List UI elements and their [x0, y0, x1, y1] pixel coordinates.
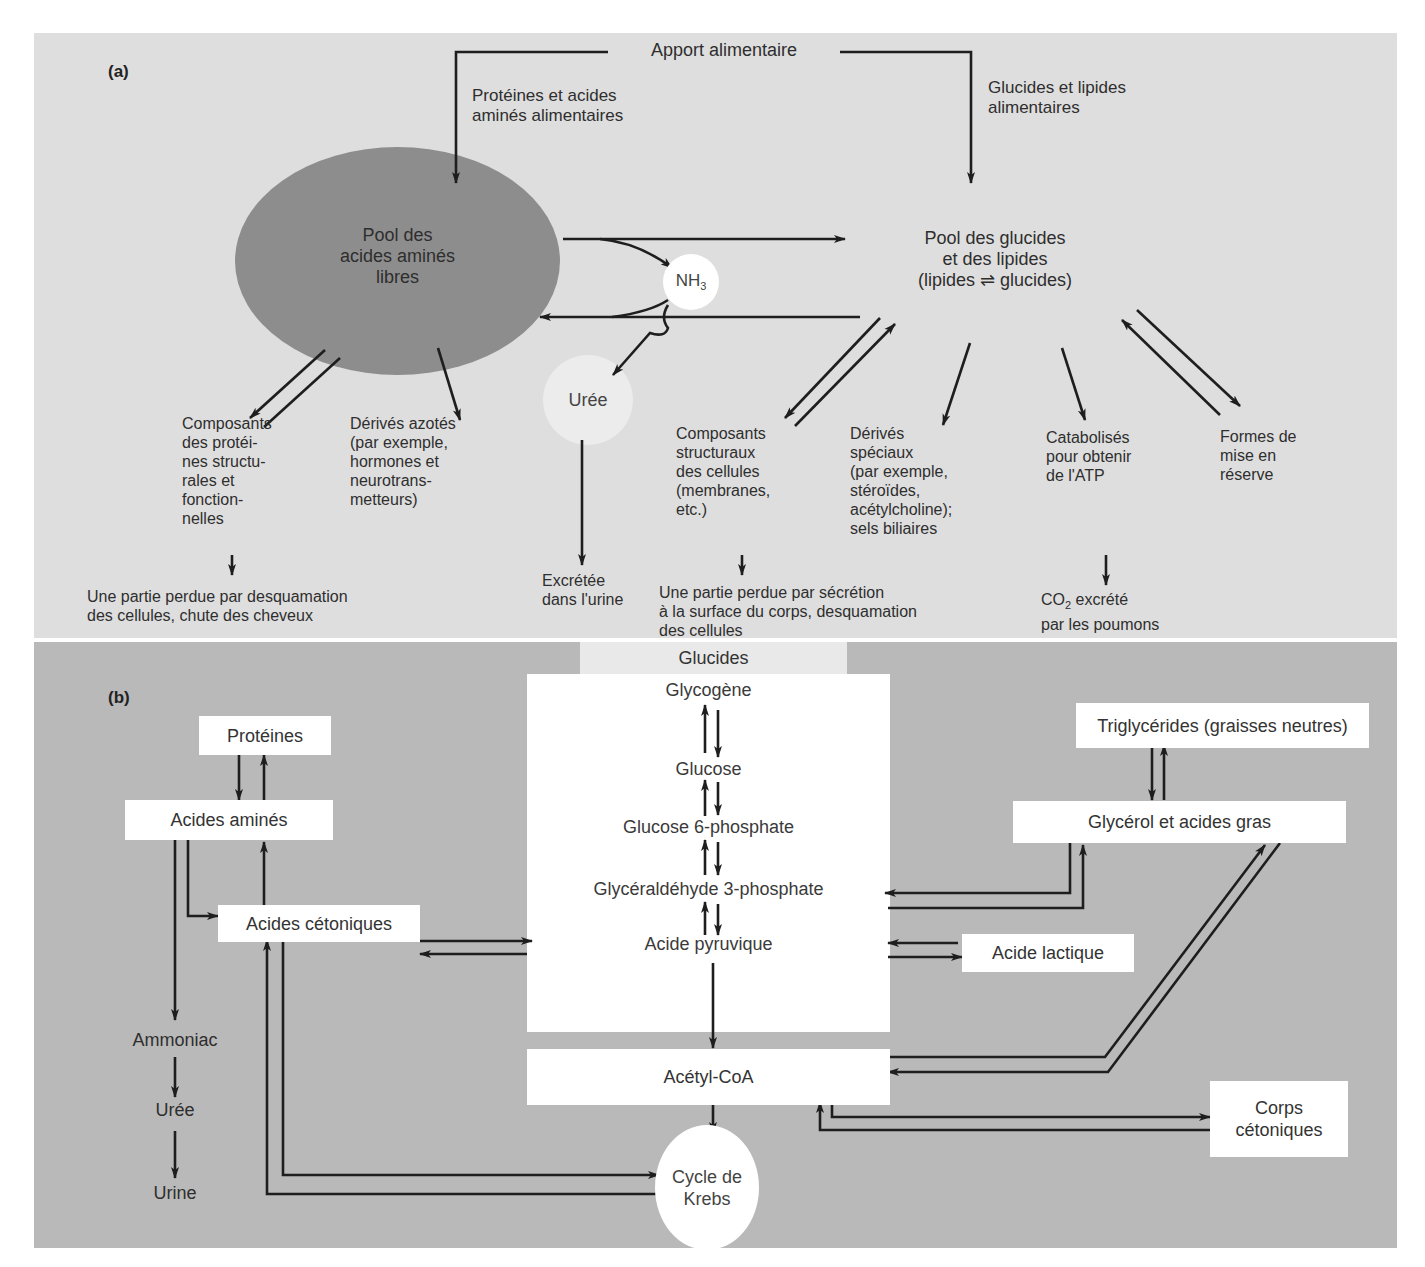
- arrow-intake-carbs: [840, 52, 971, 183]
- structural-protein-label: Composants des protéi- nes structu- rale…: [182, 414, 272, 528]
- krebs-cycle-label: Cycle de Krebs: [672, 1166, 742, 1210]
- krebs-cycle-circle: Cycle de Krebs: [655, 1125, 759, 1250]
- lactic-acid-label: Acide lactique: [992, 942, 1104, 964]
- glucose-6-phosphate-label: Glucose 6-phosphate: [527, 817, 890, 838]
- amino-loss-label: Une partie perdue par desquamation des c…: [87, 587, 348, 625]
- keto-acids-label: Acides cétoniques: [246, 913, 392, 935]
- glyceraldehyde-3-phosphate-label: Glycéraldéhyde 3-phosphate: [527, 879, 890, 900]
- glycerol-fatty-acids-label: Glycérol et acides gras: [1088, 811, 1271, 833]
- storage-forms-label: Formes de mise en réserve: [1220, 427, 1296, 484]
- proteins-box: Protéines: [199, 716, 331, 755]
- panel-a-tag: (a): [108, 62, 129, 82]
- nitrogen-derivatives-label: Dérivés azotés (par exemple, hormones et…: [350, 414, 456, 509]
- urine-label: Urine: [115, 1183, 235, 1203]
- atp-catabolism-label: Catabolisés pour obtenir de l'ATP: [1046, 428, 1131, 485]
- proteins-label: Protéines: [227, 725, 303, 747]
- triglycerides-box: Triglycérides (graisses neutres): [1076, 703, 1369, 748]
- acetyl-coa-box: Acétyl-CoA: [527, 1049, 890, 1105]
- panel-b-tag: (b): [108, 688, 130, 708]
- food-intake-label: Apport alimentaire: [608, 40, 840, 60]
- amino-acids-box: Acides aminés: [125, 800, 333, 840]
- nh3-circle: NH3: [663, 254, 719, 310]
- carb-lipid-pool-label: Pool des glucides et des lipides (lipide…: [880, 228, 1110, 291]
- excreted-urine-label: Excrétée dans l'urine: [542, 571, 623, 609]
- ammonia-label: Ammoniac: [115, 1030, 235, 1050]
- cell-structural-label: Composants structuraux des cellules (mem…: [676, 424, 770, 519]
- pyruvic-acid-label: Acide pyruvique: [527, 934, 890, 955]
- protein-intake-label: Protéines et acides aminés alimentaires: [472, 86, 623, 126]
- carb-lipid-intake-label: Glucides et lipides alimentaires: [988, 78, 1126, 118]
- glycerol-fatty-acids-box: Glycérol et acides gras: [1013, 801, 1346, 843]
- co2-label: CO2 excrété par les poumons: [1041, 590, 1159, 634]
- urea-b-label: Urée: [115, 1100, 235, 1120]
- acetyl-coa-label: Acétyl-CoA: [663, 1066, 753, 1088]
- glycogen-label: Glycogène: [527, 680, 890, 701]
- nh3-label: NH3: [676, 271, 707, 292]
- lactic-acid-box: Acide lactique: [962, 934, 1134, 972]
- keto-acids-box: Acides cétoniques: [218, 905, 420, 942]
- amino-pool-label: Pool des acides aminés libres: [305, 225, 490, 288]
- glucose-label: Glucose: [527, 759, 890, 780]
- ketone-bodies-box: Corps cétoniques: [1210, 1081, 1348, 1157]
- ketone-bodies-label: Corps cétoniques: [1235, 1097, 1322, 1141]
- triglycerides-label: Triglycérides (graisses neutres): [1097, 715, 1347, 737]
- carb-loss-label: Une partie perdue par sécrétion à la sur…: [659, 583, 917, 640]
- amino-acids-label: Acides aminés: [170, 809, 287, 831]
- special-derivatives-label: Dérivés spéciaux (par exemple, stéroïdes…: [850, 424, 952, 538]
